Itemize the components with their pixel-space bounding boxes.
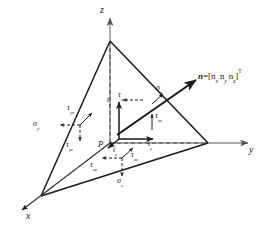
traction-tx-sub: x [115,152,117,157]
stress-tau-xz-label: τxz [155,112,162,120]
figure-canvas [0,0,263,232]
origin-point-label: P [98,140,104,149]
tau-xz-sub: xz [158,118,162,123]
sigma-z-sub: z [121,183,123,188]
traction-tz-label: tz [107,96,111,104]
stress-tau-xy-label: τxy [118,91,125,99]
tau-yx-sub: yx [70,110,74,115]
axis-label-y: y [249,145,253,155]
stress-sigma-z-label: σz [117,177,123,185]
stress-tau-zx-label: τzx [131,151,138,159]
normal-transpose: T [238,68,241,74]
stress-tau-yz-label: τyz [66,141,73,149]
tau-yz-sub: yz [69,147,73,152]
traction-tz-sub: z [109,102,111,107]
traction-ty-label: ty [148,140,152,148]
traction-ty-sub: y [150,146,152,151]
stress-tau-yx-label: τyx [67,104,74,112]
sigma-x-sub: x [160,90,162,95]
normal-nx: n [211,71,216,81]
sigma-y-sub: y [37,126,39,131]
stress-sigma-x-label: σx [156,84,162,92]
normal-nx-sub: x [216,78,218,84]
normal-ny-sub: y [224,78,226,84]
tau-zy-sub: zy [93,167,97,172]
traction-tx-label: tx [113,146,117,154]
axis-label-x: x [26,211,30,221]
axis-label-z: z [100,5,104,15]
tau-zx-sub: zx [134,157,138,162]
stress-tau-zy-label: τzy [90,161,97,169]
stress-sigma-y-label: σy [33,120,39,128]
normal-equals: =[ [203,71,211,81]
normal-vector-label: n=[nx ny nz]T [198,72,242,81]
stress-tetrahedron-figure: z y x P n=[nx ny nz]T tz ty tx σy σz σx … [0,0,263,232]
tetrahedron-hidden-edges [41,41,208,196]
tau-xy-sub: xy [121,97,125,102]
tetrahedron-edges [41,41,208,196]
